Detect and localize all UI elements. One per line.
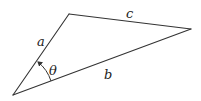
label-b: b	[104, 67, 112, 82]
side-a	[13, 14, 69, 95]
label-a: a	[37, 34, 45, 49]
label-theta: θ	[49, 63, 57, 78]
triangle-diagram: a b c θ	[0, 0, 201, 101]
label-c: c	[126, 6, 134, 21]
